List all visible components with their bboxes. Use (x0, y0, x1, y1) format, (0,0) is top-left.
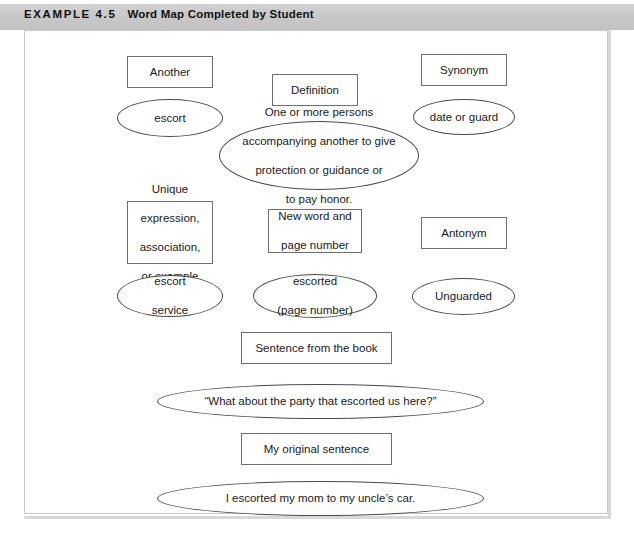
synonym-answer-label: date or guard (426, 110, 502, 125)
synonym-box: Synonym (421, 54, 507, 86)
example-number-label: EXAMPLE 4.5 (24, 8, 116, 20)
antonym-box-label: Antonym (437, 226, 490, 241)
antonym-answer-label: Unguarded (431, 289, 496, 304)
panel-shadow-bottom (24, 516, 610, 519)
synonym-answer-ellipse: date or guard (413, 99, 515, 135)
antonym-answer-ellipse: Unguarded (412, 278, 515, 315)
original-sentence-answer-label: I escorted my mom to my uncle’s car. (222, 491, 420, 506)
original-sentence-answer-ellipse: I escorted my mom to my uncle’s car. (157, 481, 484, 516)
unique-expression-box: Unique expression, association, or examp… (127, 201, 213, 264)
another-box-label: Another (146, 65, 194, 80)
unique-expression-answer-ellipse: escort service (117, 275, 223, 317)
panel-shadow-right (608, 30, 611, 519)
definition-answer-label: One or more persons accompanying another… (234, 105, 403, 207)
book-sentence-answer-label: “What about the party that escorted us h… (200, 394, 440, 409)
new-word-answer-label: escorted (page number) (269, 274, 360, 318)
diagram-panel: Another escort Definition One or more pe… (24, 30, 608, 514)
book-sentence-box-label: Sentence from the book (251, 341, 381, 356)
example-title: Word Map Completed by Student (127, 8, 313, 20)
antonym-box: Antonym (421, 217, 507, 249)
example-header-text: EXAMPLE 4.5Word Map Completed by Student (24, 8, 314, 20)
book-sentence-answer-ellipse: “What about the party that escorted us h… (157, 384, 484, 419)
unique-expression-answer-label: escort service (144, 274, 196, 318)
new-word-box: New word and page number (268, 209, 362, 253)
another-box: Another (127, 56, 213, 88)
original-sentence-box-label: My original sentence (260, 442, 373, 457)
new-word-box-label: New word and page number (270, 209, 360, 253)
unique-expression-box-label: Unique expression, association, or examp… (132, 182, 209, 284)
definition-answer-ellipse: One or more persons accompanying another… (219, 121, 419, 190)
synonym-box-label: Synonym (436, 63, 492, 78)
original-sentence-box: My original sentence (241, 433, 392, 465)
another-answer-ellipse: escort (117, 99, 223, 137)
book-sentence-box: Sentence from the book (241, 332, 392, 364)
definition-box-label: Definition (287, 83, 343, 98)
definition-box: Definition (272, 74, 358, 106)
example-figure: EXAMPLE 4.5Word Map Completed by Student… (0, 0, 634, 537)
another-answer-label: escort (150, 111, 189, 126)
new-word-answer-ellipse: escorted (page number) (253, 274, 377, 318)
